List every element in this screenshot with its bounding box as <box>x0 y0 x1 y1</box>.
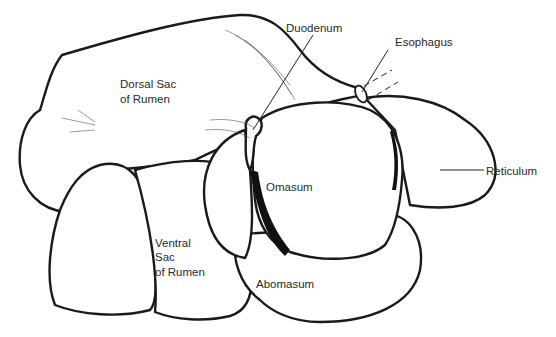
label-esophagus: Esophagus <box>395 35 453 49</box>
label-dorsal-sac-1: Dorsal Sac <box>120 77 176 91</box>
label-duodenum: Duodenum <box>286 21 342 35</box>
label-abomasum: Abomasum <box>256 277 314 291</box>
esophagus-leader <box>362 50 388 92</box>
label-dorsal-sac-2: of Rumen <box>120 92 170 106</box>
label-ventral-sac-1: Ventral <box>155 236 191 250</box>
label-reticulum: Reticulum <box>486 164 537 178</box>
esophagus-shape <box>353 84 370 105</box>
label-ventral-sac-3: of Rumen <box>155 265 205 279</box>
label-ventral-sac-2: Sac <box>155 250 175 264</box>
label-omasum: Omasum <box>266 180 313 194</box>
